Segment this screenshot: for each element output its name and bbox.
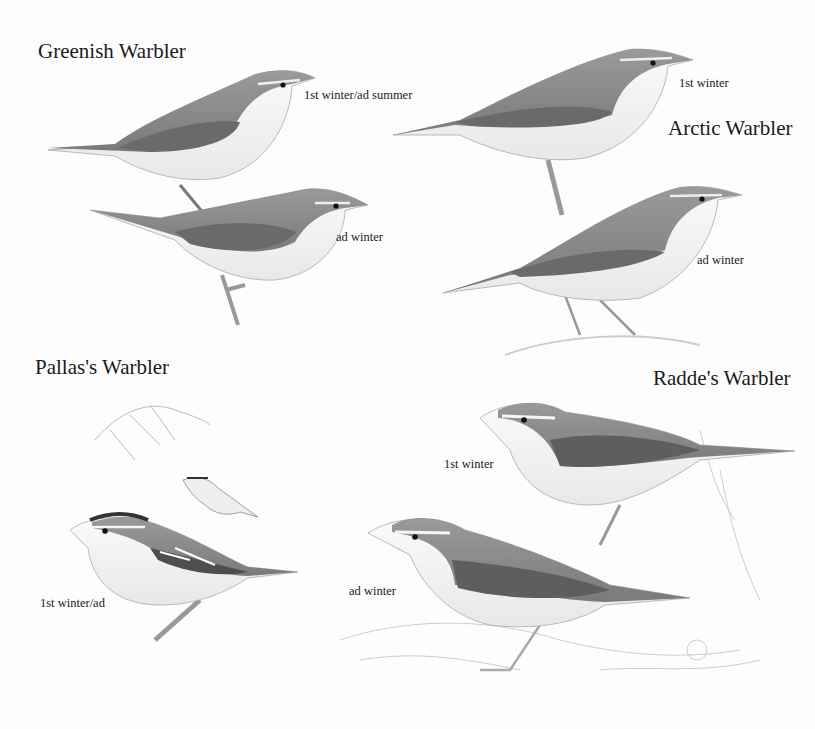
greenish-warbler-1st-winter-figure: [48, 71, 315, 215]
illustration-plate: Greenish Warbler 1st winter/ad summer ad…: [0, 0, 815, 729]
species-title-raddes-warbler: Radde's Warbler: [653, 366, 791, 391]
figure-label-pallas-1st-winter-ad: 1st winter/ad: [40, 596, 105, 611]
figure-label-greenish-1st-winter: 1st winter/ad summer: [304, 88, 412, 103]
foliage-sketch: [95, 405, 210, 460]
figure-label-arctic-1st-winter: 1st winter: [679, 76, 729, 91]
pallas-warbler-1st-winter-ad-figure: [70, 514, 298, 640]
arctic-warbler-ad-winter-figure: [443, 186, 742, 355]
figure-label-raddes-ad-winter: ad winter: [349, 584, 396, 599]
raddes-warbler-ad-winter-figure: [368, 518, 690, 670]
raddes-warbler-1st-winter-figure: [480, 403, 795, 545]
species-title-greenish-warbler: Greenish Warbler: [38, 39, 186, 64]
greenish-warbler-ad-winter-figure: [90, 188, 368, 325]
figure-label-raddes-1st-winter: 1st winter: [444, 457, 494, 472]
arctic-warbler-1st-winter-figure: [393, 49, 693, 215]
figure-label-greenish-ad-winter: ad winter: [336, 230, 383, 245]
pallas-warbler-small-figure: [183, 478, 258, 517]
species-title-pallas-warbler: Pallas's Warbler: [35, 355, 169, 380]
species-title-arctic-warbler: Arctic Warbler: [668, 116, 792, 141]
figure-label-arctic-ad-winter: ad winter: [697, 253, 744, 268]
